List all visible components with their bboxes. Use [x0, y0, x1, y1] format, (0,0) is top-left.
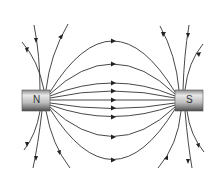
magnetic-field-diagram: [0, 0, 220, 186]
north-pole-label: N: [33, 94, 40, 105]
south-pole-label: S: [186, 94, 193, 105]
